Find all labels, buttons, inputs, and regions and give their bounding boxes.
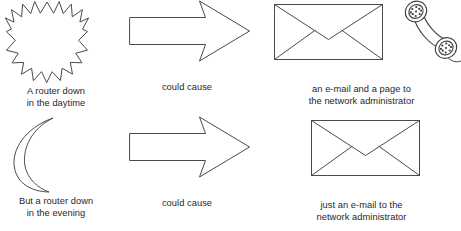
daytime-cause-caption: A router down in the daytime (0, 86, 112, 109)
daytime-effect-cell: an e-mail and a page to the network admi… (262, 0, 461, 107)
email-only-figure (262, 116, 461, 186)
daytime-cause-cell: A router down in the daytime (0, 0, 112, 109)
daytime-connector-cell: could cause (112, 0, 262, 94)
email-page-icon-group (266, 0, 461, 70)
right-block-arrow-icon (129, 0, 251, 62)
daytime-connector-caption: could cause (112, 82, 262, 94)
crescent-moon-figure (0, 116, 112, 194)
evening-effect-caption: just an e-mail to the network administra… (262, 200, 461, 223)
evening-connector-caption: could cause (112, 198, 262, 210)
starburst-figure (0, 0, 112, 84)
diagram-row-daytime: A router down in the daytime could cause (0, 0, 461, 116)
evening-effect-cell: just an e-mail to the network administra… (262, 116, 461, 223)
email-and-page-figure (262, 0, 461, 70)
right-block-arrow-icon (129, 116, 251, 178)
starburst-sun-icon (5, 0, 89, 84)
diagram-row-evening: But a router down in the evening could c… (0, 116, 461, 231)
envelope-icon (307, 116, 429, 182)
telephone-handset-icon (401, 0, 461, 63)
envelope-icon (274, 5, 382, 60)
evening-connector-cell: could cause (112, 116, 262, 210)
arrow-figure-top (112, 0, 262, 62)
daytime-effect-caption: an e-mail and a page to the network admi… (262, 84, 461, 107)
escalation-policy-diagram: A router down in the daytime could cause (0, 0, 461, 231)
evening-cause-caption: But a router down in the evening (0, 196, 112, 219)
evening-cause-cell: But a router down in the evening (0, 116, 112, 219)
crescent-moon-icon (5, 116, 75, 194)
arrow-figure-bottom (112, 116, 262, 178)
